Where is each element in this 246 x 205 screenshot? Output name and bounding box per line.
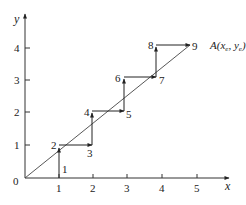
step-label-4: 4 [84, 106, 90, 118]
y-tick-label-3: 3 [14, 74, 20, 86]
endpoint-suffix: ) [241, 39, 246, 52]
step-label-2: 2 [51, 139, 57, 151]
y-axis-label: y [13, 12, 20, 26]
y-tick-label-1: 1 [14, 139, 20, 151]
step-label-9: 9 [192, 40, 198, 52]
x-tick-label-3: 3 [124, 182, 130, 194]
step-label-7: 7 [159, 74, 165, 86]
x-tick-label-5: 5 [194, 182, 200, 194]
x-tick-label-1: 1 [56, 182, 62, 194]
staircase-diagram: 1 2 3 4 5 1 2 3 4 0 x y 1 2 3 4 5 6 7 8 … [0, 0, 246, 205]
step-label-1: 1 [62, 163, 68, 175]
step-label-5: 5 [126, 108, 132, 120]
staircase-path [59, 45, 190, 178]
x-axis-label: x [224, 179, 231, 193]
y-tick-label-4: 4 [14, 42, 20, 54]
y-tick-label-2: 2 [14, 106, 20, 118]
axes: 1 2 3 4 5 1 2 3 4 0 x y [13, 12, 231, 194]
step-label-8: 8 [148, 39, 154, 51]
x-tick-label-4: 4 [159, 182, 165, 194]
step-label-3: 3 [87, 147, 93, 159]
endpoint-label: A(xe, ye) [209, 39, 246, 53]
step-label-6: 6 [115, 72, 121, 84]
x-tick-label-2: 2 [90, 182, 96, 194]
origin-label: 0 [13, 175, 19, 187]
